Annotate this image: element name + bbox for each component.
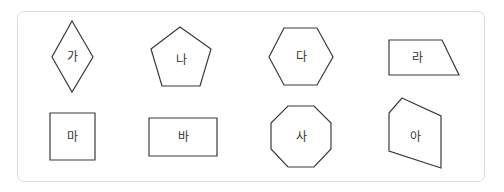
shape-label-na: 나 (176, 54, 187, 66)
shape-label-ra: 라 (412, 52, 423, 64)
shape-label-ba: 바 (178, 131, 189, 143)
shape-label-ma: 마 (67, 131, 78, 143)
shape-label-sa: 사 (296, 131, 307, 143)
trapezoid-shape (389, 40, 459, 75)
shape-label-ga: 가 (67, 51, 78, 63)
shape-label-da: 다 (296, 51, 307, 63)
shape-label-a: 아 (410, 131, 421, 143)
shapes-canvas (0, 0, 504, 192)
